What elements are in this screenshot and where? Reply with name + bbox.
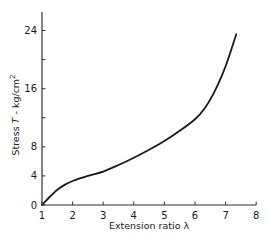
x-axis: 12345678: [39, 202, 260, 222]
x-tick-label: 7: [222, 210, 228, 221]
y-axis-title: Stress T - kg/cm2: [9, 74, 21, 155]
x-tick-label: 6: [192, 210, 198, 221]
x-tick-label: 8: [253, 210, 259, 221]
y-tick-label: 24: [24, 25, 37, 36]
y-tick-label: 16: [24, 83, 37, 94]
x-tick-label: 2: [69, 210, 75, 221]
stress-strain-chart: 12345678 0481624 Extension ratio λ Stres…: [0, 0, 266, 241]
stress-curve: [42, 34, 236, 205]
x-axis-title: Extension ratio λ: [109, 220, 190, 231]
y-tick-label: 0: [31, 200, 37, 211]
x-tick-label: 3: [100, 210, 106, 221]
y-axis: 0481624: [24, 12, 45, 211]
y-tick-label: 4: [31, 170, 37, 181]
x-tick-label: 1: [39, 210, 45, 221]
plot-area: [42, 34, 236, 205]
y-tick-label: 8: [31, 141, 37, 152]
